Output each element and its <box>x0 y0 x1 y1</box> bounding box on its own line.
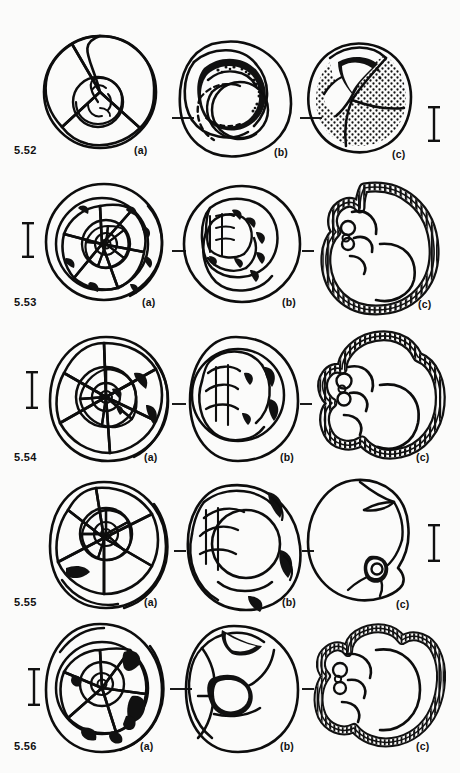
view-label-5-54-a: (a) <box>144 451 157 463</box>
panel-5-54-b: (b) <box>176 325 312 475</box>
view-label-5-54-b: (b) <box>280 451 294 463</box>
figure-row-5-56: (a) <box>0 618 460 768</box>
figure-row-5-53: (a) <box>0 172 460 322</box>
view-label-5-55-c: (c) <box>396 598 409 610</box>
figure-number-5-52: 5.52 <box>14 144 37 156</box>
figure-number-5-56: 5.56 <box>14 740 37 752</box>
view-label-5-56-b: (b) <box>280 740 294 752</box>
panel-5-53-c: (c) <box>306 172 448 322</box>
view-label-5-52-c: (c) <box>392 148 405 160</box>
panel-5-56-b: (b) <box>178 618 314 768</box>
scale-bar-5-55 <box>424 522 444 568</box>
panel-5-55-a: (a) <box>38 472 178 622</box>
figure-number-5-54: 5.54 <box>14 451 37 463</box>
panel-5-52-a: (a) <box>30 22 170 172</box>
view-label-5-56-c: (c) <box>416 740 429 752</box>
panel-5-52-b: (b) <box>160 22 310 172</box>
view-label-5-53-c: (c) <box>418 298 431 310</box>
figure-number-5-55: 5.55 <box>14 596 37 608</box>
panel-5-55-c: (c) <box>300 472 426 622</box>
panel-5-55-b: (b) <box>176 472 314 622</box>
panel-5-52-c: (c) <box>294 22 424 172</box>
view-label-5-55-a: (a) <box>144 596 157 608</box>
panel-5-53-a: (a) <box>36 172 176 322</box>
view-label-5-54-c: (c) <box>416 451 429 463</box>
scale-bar-5-53 <box>18 220 38 264</box>
figure-row-5-54: (a) <box>0 325 460 475</box>
view-label-5-52-b: (b) <box>274 146 288 158</box>
panel-5-54-a: (a) <box>38 325 178 475</box>
view-label-5-53-b: (b) <box>282 296 296 308</box>
view-label-5-52-a: (a) <box>134 144 147 156</box>
figure-row-5-55: (a) <box>0 472 460 622</box>
panel-5-53-b: (b) <box>176 172 310 322</box>
view-label-5-55-b: (b) <box>282 596 296 608</box>
panel-5-56-a: (a) <box>38 618 174 768</box>
panel-5-54-c: (c) <box>304 325 450 475</box>
panel-5-56-c: (c) <box>304 618 450 768</box>
scale-bar-5-52 <box>424 104 444 148</box>
view-label-5-53-a: (a) <box>142 296 155 308</box>
illustration-plate: (a) <box>0 0 460 773</box>
figure-row-5-52: (a) <box>0 22 460 172</box>
figure-number-5-53: 5.53 <box>14 296 37 308</box>
view-label-5-56-a: (a) <box>140 740 153 752</box>
